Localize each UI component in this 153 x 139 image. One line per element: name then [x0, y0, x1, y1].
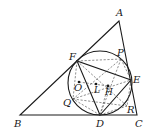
label-q: Q — [63, 97, 71, 108]
label-d: D — [95, 118, 104, 129]
label-o: O — [74, 82, 82, 93]
label-h: H — [104, 87, 113, 97]
label-l: L — [93, 85, 100, 95]
label-e: E — [132, 74, 141, 85]
geometry-figure: A B C D E F P Q R O L H — [0, 0, 153, 139]
triangle-abc — [20, 21, 137, 115]
label-a: A — [115, 7, 123, 18]
label-c: C — [135, 118, 143, 129]
label-b: B — [13, 118, 21, 129]
label-p: P — [116, 47, 124, 58]
label-r: R — [126, 104, 135, 115]
label-f: F — [68, 51, 77, 62]
triangle-def — [77, 61, 131, 115]
